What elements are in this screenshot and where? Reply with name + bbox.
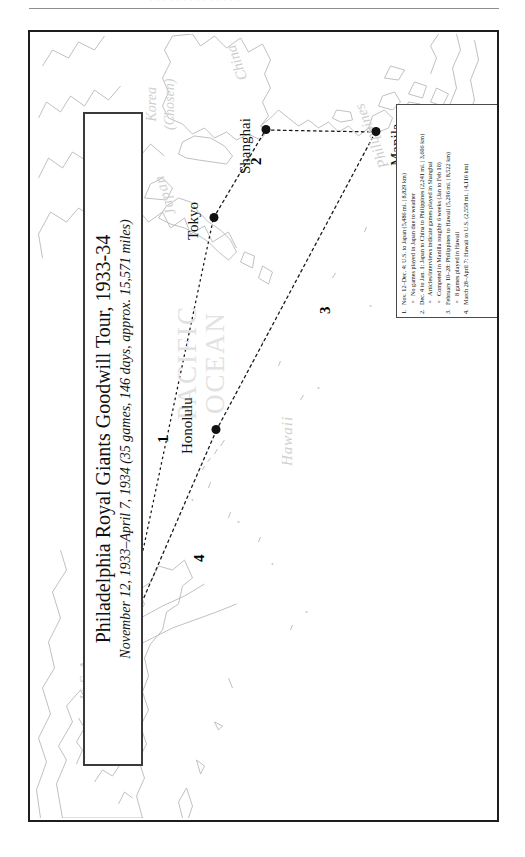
legend-subitem: oCompeted in Manilla roughly 6 weeks (Ja… — [435, 108, 444, 314]
legend-item: 2.Dec. 4 to Jan. 1: Japan to China to Ph… — [418, 108, 427, 314]
region-label-korea-line1: Korea — [143, 87, 158, 121]
figure-frame: U.S.A. Hawaii Japan Korea (Chosen) China… — [28, 30, 499, 822]
legend-subitem: o8 games played in Hawaii — [453, 108, 462, 314]
city-label-honolulu: Honolulu — [178, 397, 195, 454]
legend-item-marker: 1. — [400, 305, 409, 314]
legend-subitem-bullet: o — [426, 296, 435, 303]
legend-subitem-bullet: o — [453, 296, 462, 303]
title-box: Philadelphia Royal Giants Goodwill Tour,… — [83, 112, 143, 766]
legend-subitem-text: No games played in Japan due to weather — [409, 193, 418, 296]
legend-subitem-bullet: o — [409, 296, 418, 303]
legend-subitem: oNo games played in Japan due to weather — [409, 108, 418, 314]
region-label-hawaii: Hawaii — [278, 416, 295, 466]
page-header-rule — [29, 8, 499, 9]
city-label-shanghai: Shanghai — [236, 118, 253, 174]
legend-item: 1.Nov. 12–Dec. 4: U.S. to Japan (5,486 m… — [400, 108, 409, 314]
legend-item: 4.March 28–April 7: Hawaii to U.S. (2,55… — [462, 108, 471, 314]
title-box-inner: Philadelphia Royal Giants Goodwill Tour,… — [87, 116, 139, 762]
legend-subitem-text: 8 games played in Hawaii — [453, 232, 462, 296]
legend-list: 1.Nov. 12–Dec. 4: U.S. to Japan (5,486 m… — [400, 108, 499, 314]
legend-item-marker: 2. — [418, 305, 427, 314]
city-marker-tokyo[interactable] — [209, 213, 218, 222]
figure-subtitle: November 12, 1933–April 7, 1934 (35 game… — [118, 219, 134, 658]
route-number-2: 2 — [247, 158, 264, 166]
legend-item-marker: 3. — [444, 305, 453, 314]
legend-subitem: oArticles/interviews indicate games play… — [426, 108, 435, 314]
city-marker-shanghai[interactable] — [261, 125, 270, 134]
ocean-label-line2: OCEAN — [199, 311, 229, 414]
page-header-ghost-text: · · · · · · · · · · · · · · — [150, 0, 410, 7]
city-marker-honolulu[interactable] — [211, 425, 220, 434]
figure-title: Philadelphia Royal Giants Goodwill Tour,… — [92, 235, 115, 644]
legend-box: 1.Nov. 12–Dec. 4: U.S. to Japan (5,486 m… — [396, 104, 499, 318]
legend-subitem-text: Articles/interviews indicate games playe… — [426, 161, 435, 296]
route-number-1: 1 — [154, 436, 171, 444]
route-number-3: 3 — [316, 307, 333, 315]
legend-item: 3.February 10–28: Philippines to Hawaii … — [444, 108, 453, 314]
legend-subitem-bullet: o — [435, 296, 444, 303]
city-marker-manila[interactable] — [371, 127, 380, 136]
city-label-tokyo: Tokyo — [184, 202, 201, 240]
legend-item-marker: 4. — [462, 305, 471, 314]
legend-subitem-text: Competed in Manilla roughly 6 weeks (Jan… — [435, 162, 444, 296]
legend-item-text: Dec. 4 to Jan. 1: Japan to China to Phil… — [418, 134, 427, 305]
region-label-korea-line2: (Chosen) — [161, 79, 176, 130]
legend-item-text: February 10–28: Philippines to Hawaii (5… — [444, 152, 453, 305]
legend-item-text: March 28–April 7: Hawaii to U.S. (2,558 … — [462, 164, 471, 305]
route-number-4: 4 — [190, 555, 207, 563]
region-label-korea: Korea (Chosen) — [142, 79, 177, 130]
legend-item-text: Nov. 12–Dec. 4: U.S. to Japan (5,486 mi.… — [400, 173, 409, 305]
